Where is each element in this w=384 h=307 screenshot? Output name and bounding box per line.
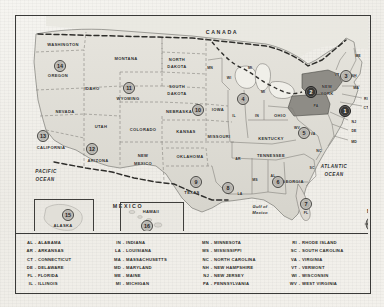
legend-item: VA-VIRGINIA [284,256,368,264]
legend-state-name: WISCONSIN [302,273,328,278]
state-label: KENTUCKY [258,136,284,141]
legend-state-name: MASSACHUSETTS [126,257,167,262]
state-abbrev-label: ME [355,54,361,58]
legend-item: AR-ARKANSAS [20,247,104,255]
state-label: NEBRASKA [166,109,192,114]
legend-column: IN-INDIANALA-LOUISIANAMA-MASSACHUSETTSMD… [104,239,192,289]
legend-state-name: CONNECTICUT [38,257,71,262]
region-marker-7[interactable]: 7 [300,198,312,210]
legend-state-name: PENNSYLVANIA [214,281,249,286]
legend-abbrev: MA [108,256,121,264]
state-abbrev-label: PA [314,104,319,108]
state-label: TEXAS [184,190,199,195]
state-label: OREGON [48,73,68,78]
legend-item: MD-MARYLAND [108,264,192,272]
compass-north-label: N [367,208,368,214]
legend-item: CT-CONNECTICUT [20,256,104,264]
legend-column: RI-RHODE ISLANDSC-SOUTH CAROLINAVA-VIRGI… [280,239,368,289]
legend-item: MN-MINNESOTA [196,239,280,247]
country-label: CANADA [206,29,239,35]
legend-panel: AL-ALABAMAAR-ARKANSASCT-CONNECTICUTDE-DE… [16,233,368,292]
legend-abbrev: LA [108,247,121,255]
legend-abbrev: IN [108,239,121,247]
region-marker-11[interactable]: 11 [123,82,135,94]
legend-column: MN-MINNESOTAMS-MISSISSIPPINC-NORTH CAROL… [192,239,280,289]
legend-item: WI-WISCONSIN [284,272,368,280]
legend-column: AL-ALABAMAAR-ARKANSASCT-CONNECTICUTDE-DE… [16,239,104,289]
legend-item: MA-MASSACHUSETTS [108,256,192,264]
legend-abbrev: CT [20,256,33,264]
state-label: IOWA [212,107,224,112]
state-abbrev-label: CT [364,106,368,110]
state-label: OHIO [274,113,286,118]
state-label: IDAHO [85,86,100,91]
legend-abbrev: RI [284,239,297,247]
legend-state-name: LOUISIANA [126,248,151,253]
state-label: WASHINGTON [47,42,79,47]
ocean-label: OCEAN [324,172,343,177]
state-abbrev-label: NC [316,149,321,153]
legend-state-name: MAINE [126,273,141,278]
legend-abbrev: AR [20,247,33,255]
region-marker-8[interactable]: 8 [222,182,234,194]
legend-item: PA-PENNSYLVANIA [196,280,280,288]
region-marker-5[interactable]: 5 [298,127,310,139]
region-marker-1[interactable]: 1 [339,105,351,117]
region-marker-9[interactable]: 9 [190,176,202,188]
state-abbrev-label: DE [351,129,356,133]
state-label: NEW [322,84,333,89]
compass-rose: N [361,206,368,231]
state-label: HAWAII [143,209,160,214]
legend-state-name: RHODE ISLAND [302,240,337,245]
state-abbrev-label: AR [235,157,240,161]
ocean-label: ATLANTIC [321,164,348,169]
legend-state-name: WEST VIRGINIA [302,281,337,286]
legend-abbrev: WV [284,280,297,288]
region-marker-16[interactable]: 16 [141,220,153,231]
legend-item: VT-VERMONT [284,264,368,272]
region-marker-12[interactable]: 12 [86,143,98,155]
state-label: MISSOURI [207,134,230,139]
state-abbrev-label: MA [353,86,359,90]
state-abbrev-label: MN [207,66,213,70]
legend-state-name: MARYLAND [126,265,152,270]
legend-item: RI-RHODE ISLAND [284,239,368,247]
state-label: UTAH [95,124,107,129]
legend-item: IN-INDIANA [108,239,192,247]
legend-abbrev: PA [196,280,209,288]
legend-item: LA-LOUISIANA [108,247,192,255]
legend-item: ME-MAINE [108,272,192,280]
legend-abbrev: NJ [196,272,209,280]
legend-abbrev: FL [20,272,33,280]
legend-state-name: NEW HAMPSHIRE [214,265,253,270]
region-marker-10[interactable]: 10 [192,104,204,116]
state-label: WYOMING [117,96,140,101]
state-label: OKLAHOMA [177,154,204,159]
region-marker-15[interactable]: 15 [62,209,74,221]
state-label: COLORADO [130,127,157,132]
region-marker-4[interactable]: 4 [237,93,249,105]
legend-item: NH-NEW HAMPSHIRE [196,264,280,272]
legend-state-name: ILLINOIS [38,281,58,286]
legend-abbrev: WI [284,272,297,280]
ocean-label: PACIFIC [35,169,57,174]
region-marker-3[interactable]: 3 [340,70,352,82]
legend-abbrev: VA [284,256,297,264]
legend-state-name: NORTH CAROLINA [214,257,256,262]
legend-state-name: MINNESOTA [214,240,241,245]
legend-abbrev: NC [196,256,209,264]
state-abbrev-label: NJ [352,120,357,124]
region-marker-14[interactable]: 14 [54,60,66,72]
legend-abbrev: MN [196,239,209,247]
region-marker-6[interactable]: 6 [272,176,284,188]
state-abbrev-label: LA [238,192,243,196]
legend-item: NC-NORTH CAROLINA [196,256,280,264]
state-label: GEORGIA [282,179,304,184]
legend-item: MS-MISSISSIPPI [196,247,280,255]
state-abbrev-label: FL [304,211,309,215]
region-marker-2[interactable]: 2 [305,86,317,98]
state-label: SOUTH [169,84,185,89]
region-marker-13[interactable]: 13 [37,130,49,142]
state-label: MONTANA [114,56,137,61]
legend-abbrev: IL [20,280,33,288]
